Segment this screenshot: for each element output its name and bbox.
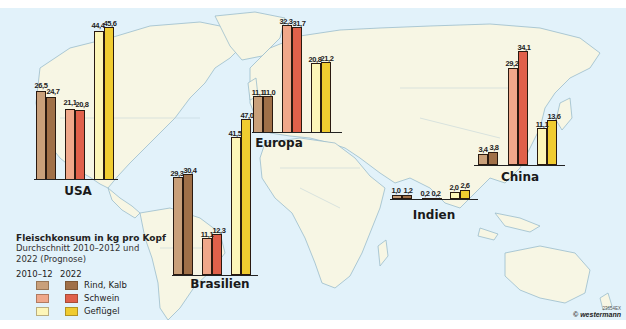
region-label-usa: USA [64, 184, 92, 198]
value-label: 31,7 [293, 19, 306, 28]
region-usa: 26,5 24,7 21,1 20,8 44,4 45,6 USA [34, 0, 124, 180]
value-label: 24,7 [47, 87, 60, 96]
bar-china-schwein-2010 [508, 68, 518, 165]
value-label: 11,1 [201, 230, 214, 239]
legend-item-schwein: Schwein [16, 293, 166, 305]
bar-usa-gefluegel-2022 [104, 27, 114, 180]
bar-brasilien-schwein-2022 [212, 234, 222, 275]
value-label: 30,4 [184, 166, 197, 175]
credit: 23654EX © westermann [573, 306, 621, 318]
region-china: 3,4 3,8 29,2 34,1 11,1 13,6 China [474, 0, 569, 190]
region-brasilien: 29,3 30,4 11,1 12,3 41,5 47,0 Brasilien [172, 0, 262, 300]
value-label: 29,3 [171, 169, 184, 178]
copyright: © westermann [573, 311, 621, 318]
bar-europa-gefluegel-2010 [311, 63, 321, 133]
bar-brasilien-rind-2010 [173, 177, 183, 275]
swatch-schwein-2010 [36, 294, 49, 303]
swatch-schwein-2022 [65, 294, 78, 303]
value-label: 2,0 [449, 183, 458, 192]
bar-indien-gefluegel-2022 [460, 190, 470, 199]
legend-year-a: 2010–12 [16, 269, 60, 279]
legend-label: Rind, Kalb [84, 280, 127, 290]
legend: Fleischkonsum in kg pro Kopf Durchschnit… [16, 233, 166, 318]
legend-year-b: 2022 [60, 269, 82, 279]
bar-indien-gefluegel-2010 [450, 192, 460, 199]
region-label-brasilien: Brasilien [190, 277, 249, 291]
value-label: 21,2 [321, 54, 334, 63]
value-label: 1,2 [403, 186, 412, 195]
region-label-indien: Indien [413, 208, 455, 222]
map-chart: 26,5 24,7 21,1 20,8 44,4 45,6 USA 11,1 1… [0, 0, 626, 329]
bar-usa-rind-2022 [46, 97, 56, 180]
bar-europa-gefluegel-2022 [321, 62, 331, 133]
legend-item-rind: Rind, Kalb [16, 280, 166, 292]
legend-label: Schwein [84, 293, 119, 303]
baseline [390, 199, 478, 200]
value-label: 3,8 [489, 143, 498, 152]
baseline [34, 179, 118, 180]
bar-brasilien-schwein-2010 [202, 238, 212, 275]
legend-subtitle-1: Durchschnitt 2010–2012 und [16, 243, 166, 254]
value-label: 45,6 [104, 19, 117, 28]
value-label: 32,3 [280, 17, 293, 26]
swatch-gefluegel-2022 [65, 307, 78, 316]
value-label: 20,8 [76, 100, 89, 109]
legend-years: 2010–122022 [16, 269, 166, 279]
value-label: 12,3 [213, 226, 226, 235]
value-label: 0,2 [431, 189, 440, 198]
value-label: 13,6 [548, 112, 561, 121]
swatch-gefluegel-2010 [36, 307, 49, 316]
value-label: 34,1 [518, 43, 531, 52]
swatch-rind-2010 [36, 281, 49, 290]
value-label: 47,0 [241, 111, 254, 120]
bar-usa-schwein-2022 [75, 110, 85, 180]
value-label: 41,5 [229, 129, 242, 138]
region-label-europa: Europa [255, 136, 303, 150]
bar-brasilien-gefluegel-2022 [241, 119, 251, 275]
bar-china-schwein-2022 [518, 51, 528, 165]
value-label: 29,2 [506, 59, 519, 68]
baseline [252, 132, 342, 133]
region-label-china: China [501, 170, 539, 184]
bar-china-gefluegel-2010 [537, 128, 547, 165]
value-label: 0,2 [420, 189, 429, 198]
legend-label: Geflügel [84, 306, 120, 316]
value-label: 2,6 [460, 181, 469, 190]
bar-usa-gefluegel-2010 [94, 31, 104, 180]
value-label: 11,1 [536, 120, 549, 129]
bar-europa-schwein-2022 [292, 27, 302, 133]
bar-usa-schwein-2010 [65, 109, 75, 180]
legend-subtitle-2: 2022 (Prognose) [16, 254, 166, 265]
region-europa: 11,1 11,0 32,3 31,7 20,8 21,2 Europa [252, 0, 347, 150]
bar-europa-schwein-2010 [282, 25, 292, 133]
legend-title: Fleischkonsum in kg pro Kopf [16, 233, 166, 243]
baseline [172, 275, 258, 276]
value-label: 11,0 [263, 88, 276, 97]
legend-item-gefluegel: Geflügel [16, 306, 166, 318]
baseline [474, 165, 565, 166]
bar-usa-rind-2010 [36, 91, 46, 180]
swatch-rind-2022 [65, 281, 78, 290]
bar-china-rind-2022 [488, 152, 498, 165]
value-label: 1,0 [391, 186, 400, 195]
bar-brasilien-rind-2022 [183, 174, 193, 275]
region-indien: 1,0 1,2 0,2 0,2 2,0 2,6 Indien [390, 0, 485, 225]
bar-brasilien-gefluegel-2010 [231, 137, 241, 275]
bar-europa-rind-2022 [263, 96, 273, 133]
